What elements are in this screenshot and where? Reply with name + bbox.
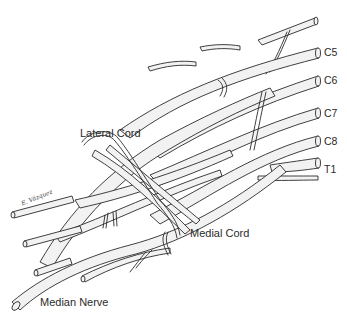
root-label-t1: T1 <box>324 164 336 175</box>
median-nerve-label: Median Nerve <box>40 297 108 308</box>
medial-cord-label: Medial Cord <box>190 228 249 239</box>
root-label-c6: C6 <box>324 75 337 86</box>
root-label-c5: C5 <box>324 47 337 58</box>
root-label-c8: C8 <box>324 136 337 147</box>
lateral-cord-label: Lateral Cord <box>80 128 141 139</box>
root-label-c7: C7 <box>324 108 337 119</box>
brachial-plexus-diagram <box>0 0 347 318</box>
